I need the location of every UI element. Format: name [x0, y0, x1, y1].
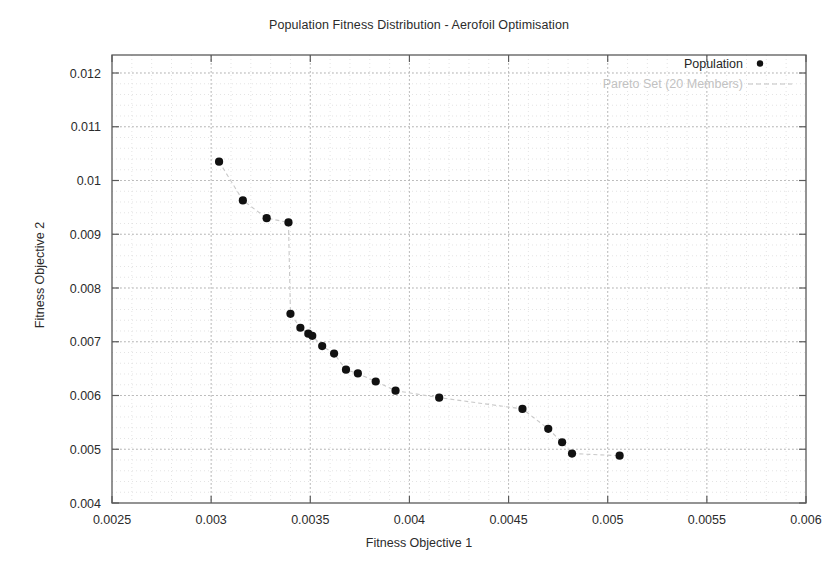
population-point	[263, 214, 271, 222]
chart-figure: Population Fitness Distribution - Aerofo…	[0, 0, 838, 571]
y-tick-label: 0.008	[70, 282, 101, 296]
pareto-set-line	[219, 162, 620, 456]
y-tick-label: 0.006	[70, 389, 101, 403]
population-point	[518, 405, 526, 413]
population-point	[318, 342, 326, 350]
x-tick-label: 0.0025	[93, 513, 131, 527]
gridlines-vertical	[211, 55, 707, 503]
population-data-points	[215, 158, 624, 460]
y-tick-label: 0.005	[70, 443, 101, 457]
x-tick-label: 0.0055	[688, 513, 726, 527]
population-point	[296, 324, 304, 332]
population-point	[308, 332, 316, 340]
minor-gridlines-vertical	[132, 55, 786, 503]
population-point	[558, 438, 566, 446]
x-tick-label: 0.0035	[291, 513, 329, 527]
legend-label-population: Population	[684, 57, 743, 71]
gridlines-horizontal	[112, 73, 806, 449]
x-tick-label: 0.004	[394, 513, 425, 527]
y-tick-label: 0.007	[70, 335, 101, 349]
y-axis-tick-labels: 0.0040.0050.0060.0070.0080.0090.010.0110…	[70, 67, 101, 511]
y-tick-label: 0.01	[77, 174, 101, 188]
population-point	[342, 366, 350, 374]
x-tick-label: 0.005	[592, 513, 623, 527]
chart-legend: Population Pareto Set (20 Members)	[603, 57, 792, 91]
population-point	[616, 452, 624, 460]
x-axis-tick-labels: 0.00250.0030.00350.0040.00450.0050.00550…	[93, 513, 822, 527]
population-point	[215, 158, 223, 166]
legend-label-pareto: Pareto Set (20 Members)	[603, 77, 743, 91]
x-axis-ticks	[112, 55, 806, 503]
x-axis-label: Fitness Objective 1	[0, 536, 838, 550]
x-tick-label: 0.003	[196, 513, 227, 527]
y-axis-label: Fitness Objective 2	[33, 155, 47, 395]
x-tick-label: 0.0045	[489, 513, 527, 527]
y-tick-label: 0.009	[70, 228, 101, 242]
population-point	[330, 349, 338, 357]
population-point	[544, 425, 552, 433]
legend-swatch-population-dot	[757, 60, 763, 66]
population-point	[372, 377, 380, 385]
y-tick-label: 0.011	[71, 120, 101, 134]
population-point	[284, 218, 292, 226]
plot-frame	[112, 55, 806, 503]
population-point	[286, 310, 294, 318]
population-point	[435, 394, 443, 402]
population-point	[239, 196, 247, 204]
plot-area: 0.00250.0030.00350.0040.00450.0050.00550…	[0, 0, 838, 571]
population-point	[354, 369, 362, 377]
population-point	[391, 387, 399, 395]
minor-gridlines-horizontal	[112, 73, 806, 492]
population-point	[568, 449, 576, 457]
y-tick-label: 0.004	[70, 497, 101, 511]
x-tick-label: 0.006	[790, 513, 821, 527]
y-tick-label: 0.012	[70, 67, 101, 81]
